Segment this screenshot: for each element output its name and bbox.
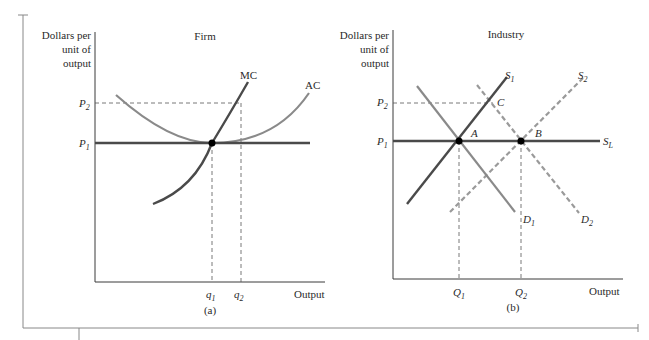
industry-point-a-label: A [470,127,478,139]
industry-s1-label: S1 [505,69,515,84]
industry-point-a-dot [456,138,463,145]
figure-canvas: Dollars per unit of output Firm MC AC P2… [0,0,649,340]
firm-p2-label: P2 [78,97,90,112]
industry-d2-label: D2 [580,213,593,228]
industry-p2-label: P2 [376,96,388,111]
firm-ylabel-line1: Dollars per [42,29,92,41]
firm-p1-label: P1 [78,137,90,152]
firm-q2-label: q2 [234,288,244,303]
firm-xlabel: Output [294,288,325,300]
firm-ac-curve [116,93,309,143]
industry-p1-label: P1 [376,135,388,150]
industry-ylabel-line3: output [361,57,389,69]
industry-title: Industry [488,28,525,40]
industry-ylabel-line2: unit of [360,43,389,55]
industry-point-b-dot [518,138,525,145]
firm-panel: Dollars per unit of output Firm MC AC P2… [42,29,325,317]
firm-ylabel-line2: unit of [62,43,91,55]
firm-ac-label: AC [305,79,320,91]
firm-ylabel-line3: output [63,57,91,69]
firm-q1-label: q1 [206,288,216,303]
industry-ylabel-line1: Dollars per [340,29,390,41]
industry-q2-label: Q2 [515,286,527,301]
industry-d2-curve [477,85,579,213]
industry-xlabel: Output [589,285,620,297]
industry-panel: Dollars per unit of output Industry A B … [340,28,623,314]
industry-point-c-label: C [497,96,505,108]
industry-sl-label: SL [603,135,614,150]
firm-title: Firm [194,30,216,42]
firm-equilibrium-dot [209,140,216,147]
industry-d1-label: D1 [522,213,535,228]
industry-s2-label: S2 [578,69,588,84]
firm-caption: (a) [204,304,217,317]
industry-caption: (b) [507,301,520,314]
page-frame [18,15,638,340]
firm-mc-label: MC [240,69,257,81]
industry-q1-label: Q1 [453,286,465,301]
industry-point-b-label: B [535,127,542,139]
